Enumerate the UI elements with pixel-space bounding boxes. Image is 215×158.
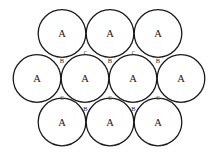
sphere-label: A: [33, 73, 41, 84]
interstitial-site-label-b: B: [83, 105, 88, 112]
sphere-label: A: [58, 117, 66, 128]
close-packing-diagram-svg: BBBCCBBCCCAAAAAAAAAA: [0, 0, 215, 158]
sphere-label: A: [106, 117, 114, 128]
sphere-label: A: [154, 28, 162, 39]
interstitial-site-label-b: B: [60, 57, 65, 64]
sphere-label: A: [81, 73, 89, 84]
interstitial-site-label-c: C: [60, 95, 64, 101]
interstitial-site-label-b: B: [156, 57, 161, 64]
sphere-label: A: [58, 28, 66, 39]
sphere-label: A: [106, 28, 114, 39]
sphere-label: A: [177, 73, 185, 84]
sphere-label: A: [154, 117, 162, 128]
close-packing-figure: BBBCCBBCCCAAAAAAAAAA: [0, 0, 215, 158]
interstitial-site-label-b: B: [131, 105, 136, 112]
interstitial-site-label-c: C: [84, 50, 88, 56]
interstitial-site-label-c: C: [132, 50, 136, 56]
sphere-label: A: [129, 73, 137, 84]
interstitial-site-label-b: B: [108, 57, 113, 64]
interstitial-site-label-c: C: [108, 95, 112, 101]
interstitial-site-label-c: C: [156, 95, 160, 101]
